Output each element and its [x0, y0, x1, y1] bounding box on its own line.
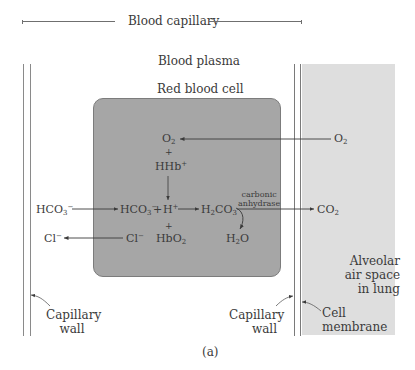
hco3-in-plasma: HCO3− — [36, 204, 73, 217]
hco3-in-cell: HCO3− — [120, 204, 157, 217]
hhb-plus: HHb+ — [155, 161, 187, 172]
o2-in-cell: O2 — [162, 133, 176, 146]
right-capillary-wall-label: Capillary wall — [229, 308, 277, 336]
plus-sign-2: + — [153, 204, 162, 215]
carbonic-acid: H2CO3 — [201, 204, 237, 217]
o2-in-lung: O2 — [334, 133, 348, 146]
cl-in-cell: Cl− — [126, 233, 144, 244]
alveolar-label: Alveolar air space in lung — [340, 254, 400, 296]
hbo2: HbO2 — [156, 233, 186, 246]
water: H2O — [226, 233, 249, 246]
left-capillary-wall-label: Capillary wall — [46, 308, 98, 336]
figure-caption: (a) — [202, 346, 219, 358]
carbonic-anhydrase-label: carbonic anhydrase — [238, 190, 280, 208]
plus-sign-3: + — [165, 222, 173, 231]
cell-membrane-label: Cell membrane — [322, 306, 387, 334]
h-ion: H+ — [163, 204, 178, 215]
cl-in-plasma: Cl− — [44, 233, 62, 244]
co2-in-lung: CO2 — [317, 204, 339, 217]
plus-sign-1: + — [165, 148, 173, 157]
